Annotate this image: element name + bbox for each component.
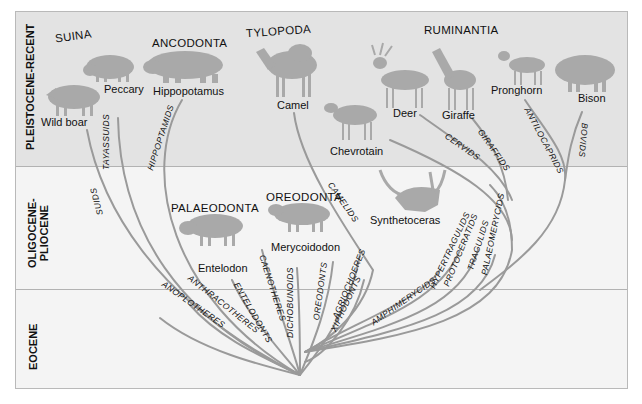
bison-icon: [555, 55, 615, 92]
group-label-palaeodonta: PALAEODONTA: [171, 202, 259, 214]
deer-icon: [372, 43, 429, 108]
animal-label-pronghorn: Pronghorn: [491, 84, 542, 96]
animal-label-bison: Bison: [578, 92, 606, 104]
animal-label-hippopotamus: Hippopotamus: [153, 85, 224, 97]
pronghorn-icon: [498, 51, 545, 85]
animal-label-deer: Deer: [393, 107, 417, 119]
animal-label-giraffe: Giraffe: [442, 109, 475, 121]
group-label-ruminantia: RUMINANTIA: [424, 24, 499, 36]
entelodon-icon: [179, 214, 243, 246]
merycoidodon-icon: [268, 203, 330, 232]
synthetoceras-icon: [380, 170, 445, 212]
lineage-anoplotheres: [160, 318, 300, 375]
animal-label-camel: Camel: [277, 99, 309, 111]
family-label-dichobunoids: DICHOBUNOIDS: [285, 267, 295, 338]
animal-label-synthetoceras: Synthetoceras: [370, 214, 440, 226]
wild-boar-icon: [46, 85, 100, 116]
family-label-tayassuids: TAYASSUIDS: [101, 114, 111, 170]
animal-label-chevrotain: Chevrotain: [330, 145, 383, 157]
animal-label-merycoidodon: Merycoidodon: [271, 241, 340, 253]
chevrotain-icon: [324, 103, 377, 140]
giraffe-icon: [432, 48, 476, 110]
animal-label-wild-boar: Wild boar: [41, 116, 87, 128]
peccary-icon: [83, 55, 134, 82]
animal-label-peccary: Peccary: [104, 83, 144, 95]
animal-label-entelodon: Entelodon: [198, 262, 248, 274]
group-label-ancodonta: ANCODONTA: [152, 37, 227, 49]
hippopotamus-icon: [143, 51, 223, 83]
camel-icon: [256, 44, 317, 97]
lineage-dichobunoids: [297, 268, 300, 375]
